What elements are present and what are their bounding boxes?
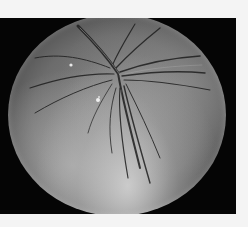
particle bbox=[96, 98, 100, 102]
particle bbox=[98, 96, 100, 98]
particle bbox=[69, 63, 72, 66]
micrograph-photo bbox=[0, 18, 236, 214]
surface-folds bbox=[0, 18, 236, 214]
